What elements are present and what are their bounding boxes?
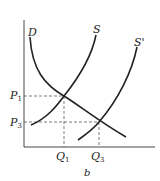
supply-label: S	[93, 24, 101, 35]
chart-caption: b	[84, 168, 90, 178]
q1-subscript: 1	[65, 156, 69, 164]
q3-letter: Q	[91, 150, 100, 163]
supply-shifted-label: S'	[134, 37, 145, 48]
q3-subscript: 3	[100, 156, 104, 164]
p3-subscript: 3	[17, 122, 21, 130]
q3-tick-label: Q3	[91, 151, 105, 164]
p3-tick-label: P3	[10, 117, 22, 130]
supply-demand-chart	[0, 0, 160, 181]
q1-tick-label: Q1	[56, 151, 70, 164]
demand-label: D	[28, 27, 37, 38]
q1-letter: Q	[56, 150, 65, 163]
p1-tick-label: P1	[10, 90, 22, 103]
p1-subscript: 1	[17, 95, 21, 103]
